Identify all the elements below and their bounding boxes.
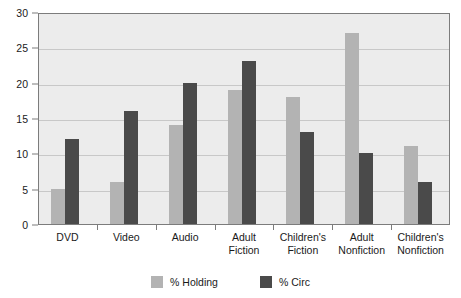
bar [110, 182, 124, 224]
bar-group [216, 14, 275, 224]
bar-group [39, 14, 98, 224]
legend-swatch-icon [151, 276, 163, 288]
x-cat-label-line: Children's [280, 231, 326, 243]
x-cat-label-line: Adult [232, 231, 256, 243]
bars-layer [39, 14, 449, 224]
legend-label: % Circ [279, 277, 310, 288]
x-cat-label: Children'sNonfiction [391, 231, 450, 256]
y-tick-label-30: 30 [16, 8, 28, 19]
legend-label: % Holding [170, 277, 218, 288]
x-tick-mark [391, 225, 392, 230]
x-cat-label-line: Adult [350, 231, 374, 243]
bar [65, 139, 79, 224]
x-axis-labels: DVDVideoAudioAdultFictionChildren'sFicti… [38, 231, 450, 273]
x-cat-label: AdultNonfiction [332, 231, 391, 256]
y-tick-label-20: 20 [16, 78, 28, 89]
x-cat-label-line: Fiction [229, 244, 260, 256]
legend-item[interactable]: % Circ [260, 276, 310, 288]
bar [242, 61, 256, 224]
x-tick-mark [156, 225, 157, 230]
bar [183, 83, 197, 224]
bar-chart: 051015202530 DVDVideoAudioAdultFictionCh… [0, 0, 461, 298]
x-cat-label-line: Children's [397, 231, 443, 243]
bar-group [274, 14, 333, 224]
legend-item[interactable]: % Holding [151, 276, 218, 288]
chart-legend: % Holding% Circ [0, 276, 461, 288]
x-cat-label-line: Nonfiction [338, 244, 385, 256]
x-cat-label-line: Nonfiction [397, 244, 444, 256]
bar-group [392, 14, 450, 224]
bar [404, 146, 418, 224]
bar [300, 132, 314, 224]
x-cat-label-line: Video [113, 231, 140, 243]
bar [345, 33, 359, 224]
bar-group [157, 14, 216, 224]
x-tick-mark [97, 225, 98, 230]
bar [51, 189, 65, 224]
x-tick-mark [332, 225, 333, 230]
bar [169, 125, 183, 224]
bar [286, 97, 300, 224]
x-cat-label-line: Audio [172, 231, 199, 243]
plot-area [38, 13, 450, 225]
bar [418, 182, 432, 224]
legend-swatch-icon [260, 276, 272, 288]
x-cat-label: Video [97, 231, 156, 244]
bar-group [333, 14, 392, 224]
x-tick-mark [215, 225, 216, 230]
x-cat-label: Children'sFiction [273, 231, 332, 256]
y-tick-label-10: 10 [16, 149, 28, 160]
y-axis: 051015202530 [0, 0, 38, 238]
y-tick-label-0: 0 [22, 220, 28, 231]
x-cat-label: Audio [156, 231, 215, 244]
x-cat-label: AdultFiction [215, 231, 274, 256]
bar [359, 153, 373, 224]
x-cat-label-line: Fiction [287, 244, 318, 256]
x-tick-mark [273, 225, 274, 230]
x-cat-label: DVD [38, 231, 97, 244]
bar [228, 90, 242, 224]
y-tick-label-15: 15 [16, 114, 28, 125]
bar [124, 111, 138, 224]
y-tick-label-25: 25 [16, 43, 28, 54]
bar-group [98, 14, 157, 224]
y-tick-label-5: 5 [22, 184, 28, 195]
x-cat-label-line: DVD [56, 231, 78, 243]
